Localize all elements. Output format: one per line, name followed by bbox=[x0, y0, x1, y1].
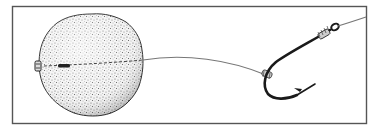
hook-eye-icon bbox=[330, 22, 340, 31]
fishing-hook-icon bbox=[265, 30, 330, 99]
boilie-bait-icon bbox=[39, 14, 143, 116]
hair-rig-illustration: Fishing hair rig: round bait (boilie) th… bbox=[0, 0, 377, 129]
hooklength-line bbox=[143, 57, 266, 75]
main-line bbox=[338, 17, 366, 26]
hook-whipping-icon bbox=[317, 26, 330, 40]
